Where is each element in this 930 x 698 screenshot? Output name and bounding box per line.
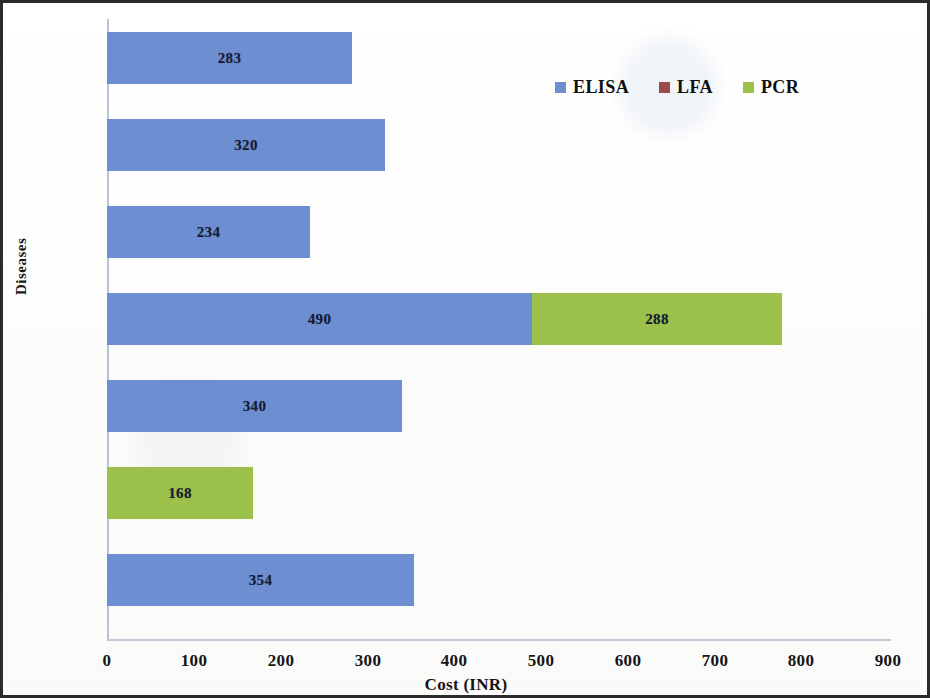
bar-value-ibd-elisa: 320 — [234, 137, 257, 154]
x-tick-700: 700 — [702, 651, 728, 671]
bar-segment-ibd-elisa[interactable]: 320 — [107, 119, 385, 171]
table-row: AI 340 — [107, 380, 402, 432]
x-tick-100: 100 — [181, 651, 207, 671]
table-row: DHV 234 — [107, 206, 310, 258]
bar-segment-dve-pcr[interactable]: 288 — [532, 293, 782, 345]
x-axis-title: Cost (INR) — [3, 675, 927, 695]
x-axis-line — [107, 639, 891, 641]
x-tick-0: 0 — [103, 651, 112, 671]
bar-value-nd-elisa: 283 — [218, 50, 241, 67]
bar-value-fc-pcr: 168 — [168, 485, 191, 502]
bar-value-ib-elisa: 354 — [249, 572, 272, 589]
bar-rows: ND 283 IBD 320 DHV 234 DVE — [107, 21, 888, 639]
bar-segment-ai-elisa[interactable]: 340 — [107, 380, 402, 432]
bar-segment-nd-elisa[interactable]: 283 — [107, 32, 352, 84]
table-row: FC 168 — [107, 467, 253, 519]
bar-segment-fc-pcr[interactable]: 168 — [107, 467, 253, 519]
bar-segment-ib-elisa[interactable]: 354 — [107, 554, 414, 606]
table-row: IBD 320 — [107, 119, 385, 171]
x-axis-ticks: 0 100 200 300 400 500 600 700 800 900 — [107, 651, 888, 677]
x-tick-200: 200 — [268, 651, 294, 671]
plot-area: ND 283 IBD 320 DHV 234 DVE — [107, 21, 888, 639]
x-tick-600: 600 — [615, 651, 641, 671]
x-tick-800: 800 — [788, 651, 814, 671]
chart-figure: ELISA LFA PCR ND 283 IBD 320 — [0, 0, 930, 698]
table-row: IB 354 — [107, 554, 414, 606]
y-axis-title: Diseases — [13, 238, 30, 295]
bar-value-ai-elisa: 340 — [243, 398, 266, 415]
bar-value-dve-pcr: 288 — [645, 311, 668, 328]
bar-segment-dhv-elisa[interactable]: 234 — [107, 206, 310, 258]
bar-value-dhv-elisa: 234 — [197, 224, 220, 241]
x-tick-500: 500 — [528, 651, 554, 671]
table-row: DVE 490 288 — [107, 293, 782, 345]
x-tick-400: 400 — [441, 651, 467, 671]
x-axis-title-text: Cost (INR) — [425, 675, 508, 694]
table-row: ND 283 — [107, 32, 352, 84]
x-tick-900: 900 — [875, 651, 901, 671]
x-tick-300: 300 — [355, 651, 381, 671]
bar-segment-dve-elisa[interactable]: 490 — [107, 293, 532, 345]
bar-value-dve-elisa: 490 — [308, 311, 331, 328]
